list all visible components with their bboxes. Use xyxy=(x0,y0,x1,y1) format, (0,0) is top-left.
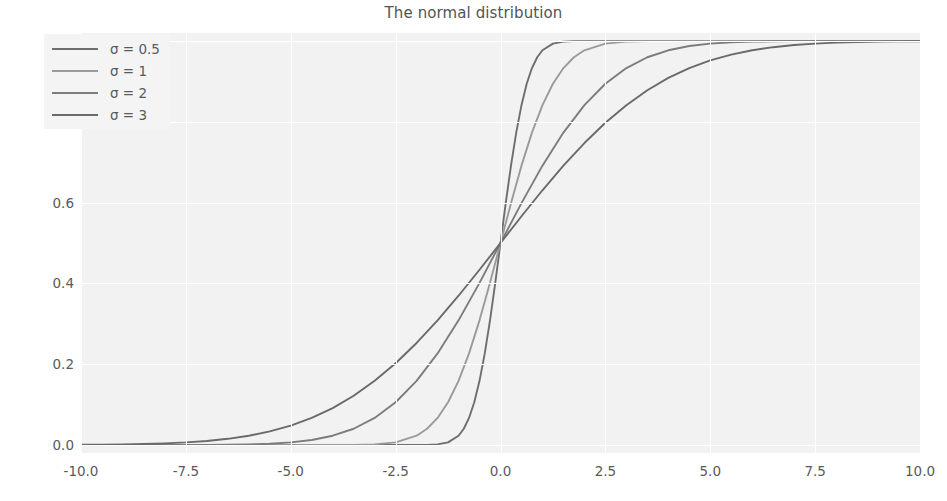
legend-item[interactable]: σ = 0.5 xyxy=(52,40,160,57)
legend-line-swatch xyxy=(52,114,98,116)
y-axis-tick-label: 0.0 xyxy=(2,437,74,453)
chart-figure: The normal distribution 0.00.20.40.60.81… xyxy=(0,0,947,501)
gridline-vertical xyxy=(291,33,292,453)
legend-item-label: σ = 3 xyxy=(110,107,147,123)
plot-area xyxy=(81,33,920,453)
x-axis: -10.0-7.5-5.0-2.50.02.55.07.510.0 xyxy=(81,463,920,487)
legend-item-label: σ = 2 xyxy=(110,85,147,101)
x-axis-tick-label: 0.0 xyxy=(456,463,546,479)
gridline-horizontal xyxy=(81,283,920,284)
gridline-vertical xyxy=(710,33,711,453)
gridline-horizontal xyxy=(81,41,920,42)
gridline-horizontal xyxy=(81,445,920,446)
gridline-vertical xyxy=(605,33,606,453)
legend-line-swatch xyxy=(52,70,98,72)
legend-item[interactable]: σ = 3 xyxy=(52,106,160,123)
x-axis-tick-label: 5.0 xyxy=(665,463,755,479)
x-axis-tick-label: 2.5 xyxy=(560,463,650,479)
legend-line-swatch xyxy=(52,92,98,94)
x-axis-tick-label: 10.0 xyxy=(875,463,947,479)
gridline-horizontal xyxy=(81,364,920,365)
x-axis-tick-label: -7.5 xyxy=(141,463,231,479)
x-axis-tick-label: -5.0 xyxy=(246,463,336,479)
y-axis-tick-label: 0.6 xyxy=(2,195,74,211)
legend-item[interactable]: σ = 1 xyxy=(52,62,160,79)
legend-item-label: σ = 0.5 xyxy=(110,41,160,57)
gridline-vertical xyxy=(815,33,816,453)
gridline-vertical xyxy=(186,33,187,453)
gridline-vertical xyxy=(396,33,397,453)
legend-item[interactable]: σ = 2 xyxy=(52,84,160,101)
y-axis-tick-label: 0.4 xyxy=(2,275,74,291)
chart-legend: σ = 0.5σ = 1σ = 2σ = 3 xyxy=(44,34,170,129)
legend-item-label: σ = 1 xyxy=(110,63,147,79)
chart-title: The normal distribution xyxy=(0,4,947,22)
x-axis-tick-label: 7.5 xyxy=(770,463,860,479)
x-axis-tick-label: -2.5 xyxy=(351,463,441,479)
gridline-horizontal xyxy=(81,122,920,123)
y-axis-tick-label: 0.2 xyxy=(2,356,74,372)
gridline-vertical xyxy=(501,33,502,453)
gridline-horizontal xyxy=(81,203,920,204)
x-axis-tick-label: -10.0 xyxy=(36,463,126,479)
legend-line-swatch xyxy=(52,48,98,50)
